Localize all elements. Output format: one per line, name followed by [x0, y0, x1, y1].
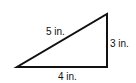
- right-triangle: [17, 14, 107, 67]
- hypotenuse-label: 5 in.: [46, 26, 65, 37]
- triangle-diagram: 5 in. 3 in. 4 in.: [0, 0, 136, 83]
- vertical-leg-label: 3 in.: [110, 38, 129, 49]
- base-label: 4 in.: [58, 71, 77, 82]
